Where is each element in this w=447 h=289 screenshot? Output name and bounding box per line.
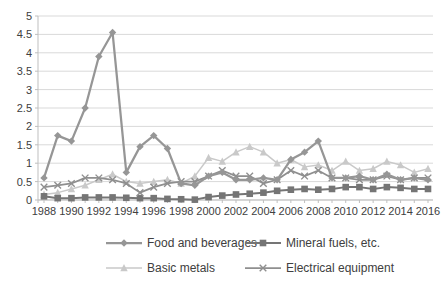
x-axis-tick-label: 2002 — [224, 205, 248, 217]
series-marker-mineral-fuels-etc — [329, 186, 336, 193]
series-marker-food-and-beverages — [81, 104, 88, 111]
x-axis-tick-label: 1994 — [114, 205, 138, 217]
series-marker-mineral-fuels-etc — [96, 194, 103, 201]
y-axis-tick-label: 4.5 — [17, 28, 32, 40]
series-marker-mineral-fuels-etc — [233, 191, 240, 198]
series-marker-mineral-fuels-etc — [356, 184, 363, 191]
series-marker-mineral-fuels-etc — [315, 186, 322, 193]
x-axis-tick-label: 2006 — [279, 205, 303, 217]
x-axis-tick-label: 2000 — [196, 205, 220, 217]
legend-item-food-and-beverages: Food and beverages — [104, 236, 243, 250]
legend-marker-glyph — [260, 240, 267, 247]
series-marker-mineral-fuels-etc — [246, 190, 253, 197]
y-axis-tick-label: 3.5 — [17, 65, 32, 77]
y-axis-tick-label: 2 — [26, 120, 32, 132]
series-marker-mineral-fuels-etc — [192, 196, 199, 203]
series-marker-mineral-fuels-etc — [301, 186, 308, 193]
x-axis-tick-label: 2014 — [388, 205, 412, 217]
x-axis-tick-label: 2008 — [306, 205, 330, 217]
x-axis-tick-label: 2012 — [361, 205, 385, 217]
series-marker-mineral-fuels-etc — [150, 195, 157, 202]
series-marker-mineral-fuels-etc — [123, 194, 130, 201]
legend-marker-triangle-icon — [104, 262, 144, 274]
series-marker-basic-metals — [424, 165, 431, 172]
x-axis-tick-label: 2010 — [333, 205, 357, 217]
series-marker-mineral-fuels-etc — [41, 193, 48, 200]
chart-legend: Food and beverages Mineral fuels, etc. B… — [104, 236, 394, 275]
series-marker-mineral-fuels-etc — [109, 194, 116, 201]
series-marker-basic-metals — [342, 157, 349, 164]
series-marker-mineral-fuels-etc — [274, 188, 281, 195]
series-marker-mineral-fuels-etc — [219, 192, 226, 199]
legend-marker-glyph — [120, 239, 127, 246]
series-marker-mineral-fuels-etc — [411, 186, 418, 193]
series-marker-mineral-fuels-etc — [68, 195, 75, 202]
y-axis-tick-label: 3 — [26, 84, 32, 96]
x-axis-tick-label: 1990 — [59, 205, 83, 217]
y-axis-tick-label: 4 — [26, 47, 32, 59]
series-marker-food-and-beverages — [54, 132, 61, 139]
x-axis-tick-label: 2004 — [251, 205, 275, 217]
series-marker-mineral-fuels-etc — [82, 194, 89, 201]
x-axis-tick-label: 1998 — [169, 205, 193, 217]
y-axis-tick-label: 0.5 — [17, 176, 32, 188]
legend-label: Electrical equipment — [286, 261, 394, 275]
y-axis-tick-label: 2.5 — [17, 102, 32, 114]
legend-item-electrical-equipment: Electrical equipment — [243, 261, 394, 275]
series-marker-mineral-fuels-etc — [425, 186, 432, 193]
series-marker-mineral-fuels-etc — [397, 185, 404, 192]
series-marker-food-and-beverages — [68, 137, 75, 144]
legend-label: Mineral fuels, etc. — [286, 236, 380, 250]
legend-item-mineral-fuels: Mineral fuels, etc. — [243, 236, 394, 250]
series-marker-mineral-fuels-etc — [178, 196, 185, 203]
y-axis-tick-label: 5 — [26, 10, 32, 22]
y-axis-tick-label: 1 — [26, 157, 32, 169]
series-marker-mineral-fuels-etc — [54, 195, 61, 202]
series-marker-mineral-fuels-etc — [260, 189, 267, 196]
x-axis-tick-label: 1996 — [141, 205, 165, 217]
chart-svg: 00.511.522.533.544.551988199019921994199… — [0, 0, 447, 228]
legend-label: Basic metals — [147, 261, 215, 275]
x-axis-tick-label: 1988 — [32, 205, 56, 217]
series-marker-mineral-fuels-etc — [342, 184, 349, 191]
series-marker-basic-metals — [246, 143, 253, 150]
x-axis-tick-label: 1992 — [87, 205, 111, 217]
legend-marker-diamond-icon — [104, 237, 144, 249]
series-marker-mineral-fuels-etc — [370, 186, 377, 193]
x-axis-tick-label: 2016 — [416, 205, 440, 217]
series-marker-basic-metals — [205, 154, 212, 161]
series-marker-basic-metals — [383, 157, 390, 164]
series-marker-mineral-fuels-etc — [384, 184, 391, 191]
chart-container: 00.511.522.533.544.551988199019921994199… — [0, 0, 447, 289]
series-marker-mineral-fuels-etc — [164, 196, 171, 203]
series-marker-food-and-beverages — [40, 174, 47, 181]
legend-item-basic-metals: Basic metals — [104, 261, 243, 275]
series-line-food-and-beverages — [44, 33, 428, 186]
y-axis-tick-label: 1.5 — [17, 139, 32, 151]
series-marker-mineral-fuels-etc — [205, 194, 212, 201]
legend-marker-square-icon — [243, 237, 283, 249]
legend-label: Food and beverages — [147, 236, 257, 250]
legend-marker-x-icon — [243, 262, 283, 274]
series-marker-mineral-fuels-etc — [288, 186, 295, 193]
